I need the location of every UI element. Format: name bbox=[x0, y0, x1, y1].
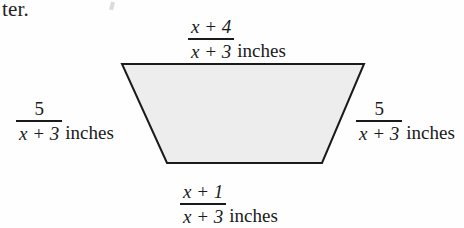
label-left-leg: 5 x + 3 inches bbox=[16, 98, 114, 144]
label-top-unit: inches bbox=[237, 41, 286, 62]
label-bottom-base: x + 1 x + 3 inches bbox=[180, 181, 278, 227]
fraction-bottom-denominator: x + 3 bbox=[180, 206, 226, 227]
fraction-bottom-bar bbox=[180, 203, 226, 205]
label-top-base: x + 4 x + 3 inches bbox=[188, 16, 286, 62]
fraction-top: x + 4 x + 3 bbox=[188, 16, 234, 62]
fraction-right-numerator: 5 bbox=[371, 98, 387, 119]
fraction-left: 5 x + 3 bbox=[16, 98, 62, 144]
fraction-left-bar bbox=[16, 120, 62, 122]
fraction-left-numerator: 5 bbox=[31, 98, 47, 119]
fraction-top-denominator: x + 3 bbox=[188, 41, 234, 62]
fraction-bottom: x + 1 x + 3 bbox=[180, 181, 226, 227]
label-right-leg: 5 x + 3 inches bbox=[356, 98, 455, 144]
fraction-right-denominator: x + 3 bbox=[356, 123, 402, 144]
figure-page: ter. 6 3 0 1 x + 4 x + 3 inches x + 1 x … bbox=[0, 0, 464, 228]
fraction-right: 5 x + 3 bbox=[356, 98, 402, 144]
fraction-left-denominator: x + 3 bbox=[16, 123, 62, 144]
fraction-right-bar bbox=[356, 120, 402, 122]
fraction-bottom-numerator: x + 1 bbox=[180, 181, 226, 202]
label-left-unit: inches bbox=[65, 123, 114, 144]
label-right-unit: inches bbox=[406, 123, 455, 144]
label-bottom-unit: inches bbox=[229, 206, 278, 227]
trapezoid-shape bbox=[122, 64, 364, 163]
fraction-top-bar bbox=[188, 38, 234, 40]
fraction-top-numerator: x + 4 bbox=[188, 16, 234, 37]
